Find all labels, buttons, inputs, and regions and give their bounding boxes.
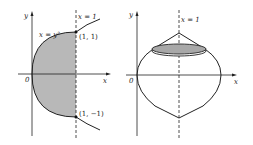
y-axis-arrow-icon [31,11,34,16]
point-bottom [75,116,78,119]
y-axis-arrow-icon [136,11,139,16]
x-axis-arrow-icon [232,74,237,77]
origin-label: 0 [129,77,134,85]
y-axis-label: y [23,12,29,20]
point-bottom-label: (1, −1) [79,110,104,118]
line-label: x = 1 [78,13,97,21]
origin-label: 0 [25,76,30,84]
shaded-region [32,32,76,117]
right-figure: y x 0 x = 1 [126,10,238,138]
curve-label: x = y² [39,31,60,39]
left-figure: y x 0 x = y² x = 1 (1, 1) (1, −1) [18,10,111,138]
figure-canvas: y x 0 x = y² x = 1 (1, 1) (1, −1) y x 0 … [0,0,253,145]
point-top [75,31,78,34]
line-label: x = 1 [181,16,200,24]
y-axis-label: y [128,11,134,19]
x-axis-arrow-icon [106,73,111,76]
point-top-label: (1, 1) [79,33,98,41]
x-axis-label: x [234,78,238,86]
disk-slice [152,44,206,54]
x-axis-label: x [103,77,107,85]
